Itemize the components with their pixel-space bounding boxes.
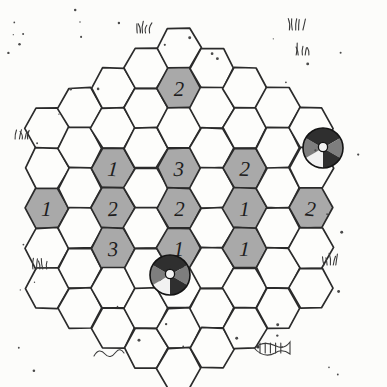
grass-blade [307,48,309,55]
background-speck [340,52,342,54]
background-speck [314,149,316,151]
background-speck [235,337,238,340]
background-speck [306,62,309,65]
grass-blade [329,253,331,265]
background-speck [13,22,15,24]
background-speck [69,88,71,90]
grass-tuft-icon [137,21,152,33]
background-speck [18,43,21,46]
grass-blade [142,21,143,33]
background-speck [22,33,24,35]
hex-tile-layer[interactable]: 112323212112 [25,28,334,387]
background-speck [276,334,278,336]
background-speck [34,282,35,283]
grass-blade [145,25,147,33]
grass-blade [302,46,303,55]
background-speck [13,34,14,35]
squiggle-doodle [94,350,124,357]
background-speck [188,36,191,39]
beach-ball-piece-center[interactable] [150,255,190,295]
grass-blade [333,256,335,265]
background-speck [97,88,100,91]
grass-blade [25,132,27,139]
background-speck [285,81,287,83]
grass-blade [15,130,16,139]
background-speck [79,21,81,23]
background-speck [74,9,76,11]
grass-blade [296,19,297,30]
grass-blade [138,24,140,33]
background-speck [216,57,219,60]
fish-skeleton-icon [254,342,290,355]
background-speck [18,347,20,349]
hex-board-svg[interactable]: 112323212112 [0,0,387,387]
background-speck [58,114,59,115]
ball-hub-icon [165,269,174,278]
fish-eye-icon [256,345,259,348]
background-speck [337,374,339,376]
background-speck [7,52,9,54]
background-speck [138,339,141,342]
background-speck [23,244,25,246]
background-speck [118,22,120,24]
ball-hub-icon [318,142,327,151]
background-speck [281,346,283,348]
grass-blade [336,254,338,265]
background-speck [182,346,184,348]
background-speck [337,290,340,293]
grass-blade [149,23,152,33]
grass-tuft-icon [288,19,305,30]
background-speck [328,367,330,369]
grass-blade [305,48,306,55]
background-speck [211,52,214,55]
background-speck [20,289,21,290]
background-speck [357,153,359,155]
grass-blade [303,19,306,30]
beach-ball-piece-right[interactable] [303,128,343,168]
background-speck [165,323,167,325]
board-canvas: 112323212112 [0,0,387,387]
grass-tuft-icon [296,43,309,55]
background-speck [117,306,119,308]
background-speck [80,36,82,38]
background-speck [276,323,279,326]
background-speck [340,231,343,234]
grass-blade [291,19,292,30]
background-speck [273,38,274,39]
background-speck [326,213,328,215]
background-speck [164,44,166,46]
background-speck [36,142,38,144]
fish-body [254,342,290,355]
background-speck [33,370,36,373]
grass-blade [299,20,300,30]
grass-blade [288,19,290,30]
